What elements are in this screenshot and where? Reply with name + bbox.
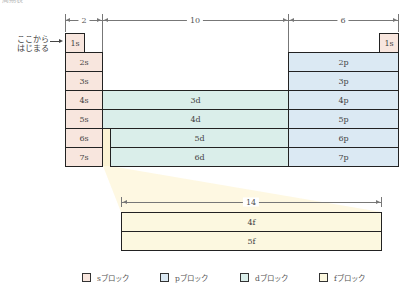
cell-5d: 5d [110, 128, 289, 148]
dimension-label: 14 [243, 198, 259, 207]
legend-swatch-s [82, 273, 91, 282]
legend-item-d: dブロック [240, 272, 288, 283]
cell-4p: 4p [288, 90, 399, 110]
cell-2p: 2p [288, 52, 399, 72]
legend-label: sブロック [97, 272, 129, 283]
cell-1s-right: 1s [379, 33, 399, 53]
cell-3d: 3d [102, 90, 289, 110]
cell-7p: 7p [288, 147, 399, 167]
cell-6p: 6p [288, 128, 399, 148]
legend-item-f: fブロック [319, 272, 365, 283]
cell-6d: 6d [110, 147, 289, 167]
cell-3p: 3p [288, 71, 399, 91]
cell-5p: 5p [288, 109, 399, 129]
cell-5f: 5f [121, 231, 382, 251]
legend-swatch-d [240, 273, 249, 282]
legend-label: fブロック [334, 272, 365, 283]
legend-item-s: sブロック [82, 272, 129, 283]
legend-swatch-f [319, 273, 328, 282]
legend-item-p: pブロック [160, 272, 208, 283]
cell-4f: 4f [121, 212, 382, 232]
legend-label: pブロック [175, 272, 208, 283]
legend-swatch-p [160, 273, 169, 282]
legend-label: dブロック [255, 272, 288, 283]
cell-4d: 4d [102, 109, 289, 129]
